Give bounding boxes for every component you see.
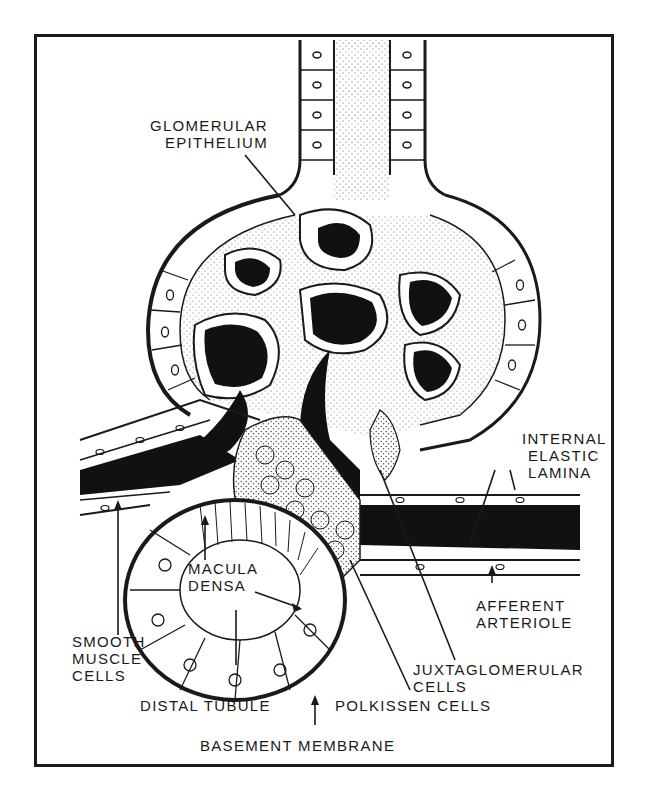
label-juxtaglomerular-cells: JUXTAGLOMERULAR CELLS [413, 661, 584, 695]
label-internal-elastic-lamina: INTERNAL ELASTIC LAMINA [522, 430, 607, 481]
label-afferent-arteriole: AFFERENT ARTERIOLE [476, 597, 572, 631]
label-distal-tubule: DISTAL TUBULE [140, 697, 271, 714]
label-glomerular-epithelium: GLOMERULAR EPITHELIUM [128, 117, 268, 151]
distal-tubule [125, 500, 345, 700]
label-polkissen-cells: POLKISSEN CELLS [335, 697, 491, 714]
label-macula-densa: MACULA DENSA [188, 560, 258, 594]
label-basement-membrane: BASEMENT MEMBRANE [200, 737, 395, 754]
proximal-tubule-neck [280, 40, 445, 200]
label-smooth-muscle-cells: SMOOTH MUSCLE CELLS [72, 633, 146, 684]
